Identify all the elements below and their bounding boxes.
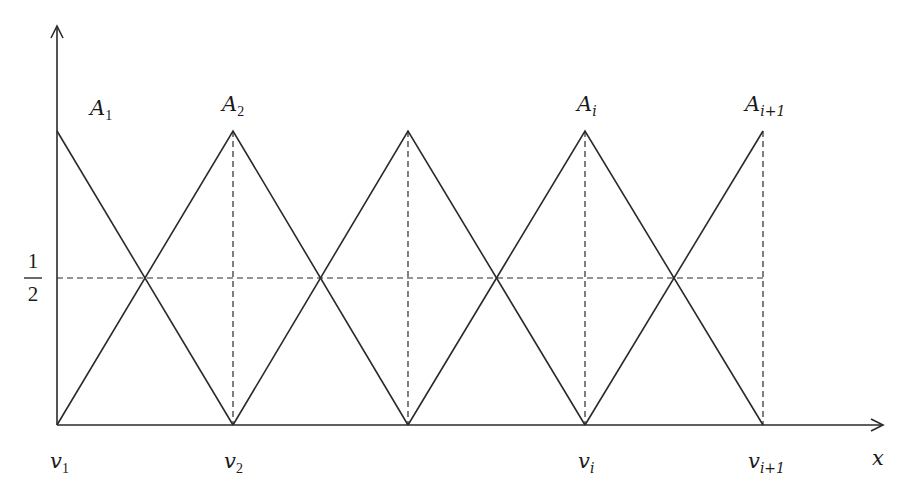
label-v2: v2 (224, 449, 243, 476)
label-Ai1: Ai+1 (743, 92, 785, 119)
label-vi: vi (578, 449, 594, 476)
x-axis-label: x (872, 446, 884, 470)
label-Ai: Ai (575, 92, 597, 119)
label-A2: A2 (220, 92, 244, 119)
half-denominator: 2 (28, 282, 39, 306)
half-numerator: 1 (28, 249, 39, 273)
membership-function-diagram: A1 A2 Ai Ai+1 1 2 v1 v2 vi vi+1 x (0, 0, 907, 500)
label-A1: A1 (88, 96, 112, 123)
label-v1: v1 (50, 449, 69, 476)
label-vi1: vi+1 (748, 449, 785, 476)
